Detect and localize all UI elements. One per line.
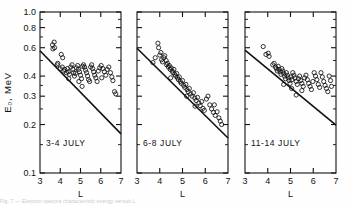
x-tick-label: 3 [134,176,139,186]
data-point [300,88,304,92]
x-tick-label: 4 [265,176,270,186]
panel-3: 3456711-14 JULYL [242,12,338,199]
x-tick-label: 6 [203,176,208,186]
data-point [327,74,331,78]
data-point [80,84,84,88]
y-tick-label: 0.1 [23,168,36,178]
data-point [108,71,112,75]
trend-line [40,51,121,134]
x-tick-label: 4 [58,176,63,186]
y-tick-label: 1.0 [23,7,36,17]
trend-line [245,50,336,125]
y-tick-label: 0.6 [23,43,36,53]
data-point [328,78,332,82]
data-point [319,71,323,75]
data-point [291,71,295,75]
data-point [153,56,157,60]
data-point [169,76,173,80]
y-axis-label: E₀, MeV [2,72,13,113]
figure-caption-partial: Fig. 7 — Electron spectra characteristic… [0,197,352,205]
data-point [100,76,104,80]
panel-2: 345676-8 JULYL [134,12,230,199]
panel-1: 345671.00.80.60.40.30.20.13-4 JULYL [23,7,123,199]
data-point [311,79,315,83]
panel-label: 11-14 JULY [251,138,301,148]
panel-label: 3-4 JULY [46,138,86,148]
data-point [208,103,212,107]
x-tick-label: 3 [37,176,42,186]
data-point [158,53,162,57]
data-point [329,84,333,88]
figure-three-panel-scatter: 345671.00.80.60.40.30.20.13-4 JULYL34567… [0,0,352,205]
data-point [284,71,288,75]
y-tick-label: 0.2 [23,120,36,130]
x-tick-label: 7 [118,176,123,186]
y-tick-label: 0.3 [23,91,36,101]
figure-svg: 345671.00.80.60.40.30.20.13-4 JULYL34567… [0,0,352,205]
data-point [212,103,216,107]
x-tick-label: 4 [157,176,162,186]
data-point [156,41,160,45]
x-tick-label: 7 [225,176,230,186]
panel-label: 6-8 JULY [143,138,183,148]
data-point [157,46,161,50]
x-tick-label: 3 [242,176,247,186]
x-tick-label: 5 [78,176,83,186]
y-tick-label: 0.8 [23,23,36,33]
data-point [298,74,302,78]
plot-frame [245,12,336,173]
x-tick-label: 7 [333,176,338,186]
data-point [294,93,298,97]
data-point [77,79,81,83]
x-tick-label: 5 [180,176,185,186]
y-tick-label: 0.4 [23,71,36,81]
x-tick-label: 5 [288,176,293,186]
data-point [320,75,324,79]
x-tick-label: 6 [98,176,103,186]
data-point [261,44,265,48]
data-point [159,50,163,54]
x-tick-label: 6 [311,176,316,186]
